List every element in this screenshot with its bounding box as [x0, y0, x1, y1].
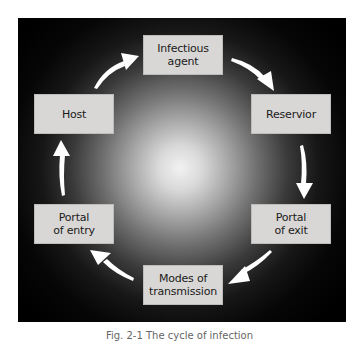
node-label: Modes of transmission — [149, 272, 217, 298]
arrow-infectious-agent-to-reservoir — [231, 58, 274, 91]
node-portal-of-exit: Portal of exit — [251, 204, 331, 244]
arrow-modes-of-transmission-to-portal-of-entry — [90, 250, 134, 281]
arrow-host-to-infectious-agent — [94, 53, 139, 89]
node-host: Host — [34, 94, 114, 134]
node-infectious-agent: Infectious agent — [143, 35, 223, 75]
node-modes-of-transmission: Modes of transmission — [143, 265, 223, 305]
node-portal-of-entry: Portal of entry — [34, 204, 114, 244]
node-label: Portal of entry — [53, 211, 95, 237]
node-label: Reservior — [266, 108, 316, 121]
figure-caption: Fig. 2-1 The cycle of infection — [0, 330, 359, 341]
node-label: Host — [62, 108, 86, 121]
node-reservoir: Reservior — [251, 94, 331, 134]
arrow-portal-of-exit-to-modes-of-transmission — [228, 250, 272, 284]
node-label: Portal of exit — [274, 211, 307, 237]
arrow-reservoir-to-portal-of-exit — [296, 145, 313, 199]
arrow-portal-of-entry-to-host — [53, 140, 70, 196]
node-label: Infectious agent — [157, 42, 209, 68]
